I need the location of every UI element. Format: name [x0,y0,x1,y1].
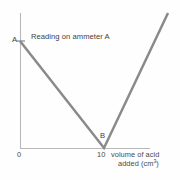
graph-title-label: Reading on ammeter A [31,33,110,42]
x-axis-title-units-text: added (cm [118,159,153,168]
ammeter-reading-graph-figure: Reading on ammeter A A B 0 10 volume of … [0,0,180,180]
x-axis-title: volume of acid added (cm3) [111,150,177,169]
x-axis-title-units-close: ) [156,159,159,168]
point-b-label: B [100,132,105,141]
x-axis-title-line2: added (cm3) [111,159,177,168]
point-a-label: A [12,36,17,45]
x-axis-tick-label-0: 0 [17,151,21,160]
x-axis-tick-label-10: 10 [97,151,105,160]
